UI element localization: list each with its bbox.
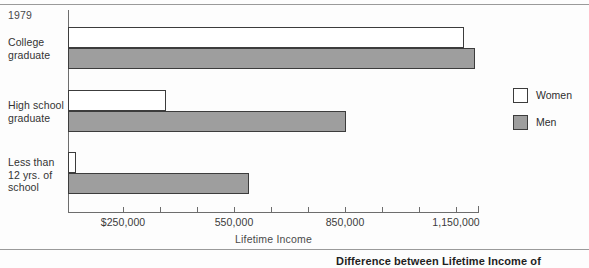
top-divider xyxy=(0,4,589,5)
x-axis-right-cap xyxy=(478,206,479,213)
category-label-college-graduate: Collegegraduate xyxy=(8,36,66,61)
x-axis-tick xyxy=(382,207,383,213)
figure-caption: Difference between Lifetime Income of xyxy=(288,255,589,267)
category-label-line: High school xyxy=(8,99,66,112)
category-label-line: Less than xyxy=(8,156,66,169)
x-axis-tick-label: 850,000 xyxy=(326,216,365,228)
category-label-line: 12 yrs. of xyxy=(8,169,66,182)
x-axis-tick xyxy=(234,207,235,213)
year-label: 1979 xyxy=(8,9,32,21)
category-label-line: College xyxy=(8,36,66,49)
category-label-line: graduate xyxy=(8,112,66,125)
bar-women xyxy=(68,152,76,173)
x-axis-tick xyxy=(456,207,457,213)
x-axis-tick-label: 1,150,000 xyxy=(432,216,480,228)
legend-label-men: Men xyxy=(536,116,556,128)
x-axis-tick-label: 550,000 xyxy=(215,216,254,228)
legend-label-women: Women xyxy=(536,89,572,101)
bar-men xyxy=(68,48,475,69)
legend-item-men: Men xyxy=(513,113,572,131)
bar-women xyxy=(68,27,464,48)
white-square-icon xyxy=(513,88,528,103)
gray-square-icon xyxy=(513,115,528,130)
chart-figure: 1979 $250,000550,000850,0001,150,000 Col… xyxy=(0,0,589,268)
x-axis-tick xyxy=(271,207,272,213)
category-label-line: school xyxy=(8,181,66,194)
x-axis-tick xyxy=(419,207,420,213)
bar-men xyxy=(68,111,346,132)
bottom-divider xyxy=(0,249,589,250)
x-axis-tick xyxy=(160,207,161,213)
category-label-high-school-graduate: High schoolgraduate xyxy=(8,99,66,124)
x-axis-line xyxy=(68,212,479,213)
x-axis-tick xyxy=(123,207,124,213)
x-axis-tick xyxy=(68,207,69,213)
x-axis-tick xyxy=(197,207,198,213)
legend: Women Men xyxy=(513,86,572,140)
category-label-less-than-12-yrs: Less than12 yrs. ofschool xyxy=(8,156,66,194)
x-axis-title: Lifetime Income xyxy=(68,233,479,245)
x-axis-tick xyxy=(308,207,309,213)
category-label-line: graduate xyxy=(8,49,66,62)
bar-men xyxy=(68,173,249,194)
x-axis-tick-label: $250,000 xyxy=(101,216,146,228)
legend-item-women: Women xyxy=(513,86,572,104)
bar-women xyxy=(68,90,166,111)
x-axis-tick xyxy=(345,207,346,213)
